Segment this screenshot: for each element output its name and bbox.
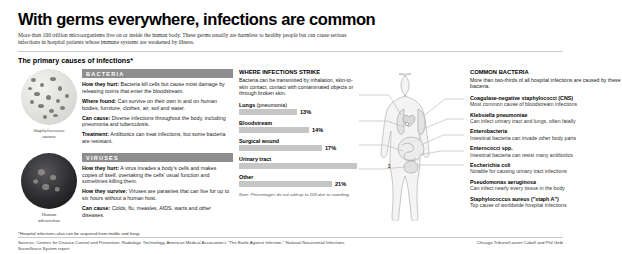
human-body-diagram bbox=[359, 69, 464, 225]
bar-label-text: Surgical wound bbox=[239, 138, 279, 144]
bar-fill bbox=[239, 181, 332, 187]
chart-bar-urinary-tract: Urinary tract 34% bbox=[239, 156, 359, 170]
bacteria-list-item: Staphylococcus aureus ("staph A") Top ca… bbox=[470, 196, 622, 209]
viruses-figure: Human adenovirus bbox=[18, 153, 80, 224]
bacteria-desc: Intestinal bacteria can resist many anti… bbox=[470, 152, 622, 158]
chart-bar-bloodstream: Bloodstream 14% bbox=[239, 120, 359, 134]
where-infections-strike-chart: WHERE INFECTIONS STRIKE Bacteria can be … bbox=[239, 69, 359, 196]
virus-photo-caption: Human adenovirus bbox=[18, 212, 80, 224]
bar-row: 13% bbox=[239, 109, 359, 115]
bacteria-desc: Top cause of worldwide hospital infectio… bbox=[470, 202, 622, 208]
bacteria-list-item: Enterobacteria Intestinal bacteria can i… bbox=[470, 128, 622, 141]
causes-column: Staphylococcus aureus BACTERIA How they … bbox=[18, 69, 233, 229]
bar-label-text: Urinary tract bbox=[239, 156, 271, 162]
bacteria-figure: Staphylococcus aureus bbox=[18, 69, 80, 140]
bar-value: 13% bbox=[300, 109, 311, 115]
bacteria-list-item: Enterococci spp. Intestinal bacteria can… bbox=[470, 145, 622, 158]
content-columns: Staphylococcus aureus BACTERIA How they … bbox=[18, 69, 563, 229]
common-bacteria-column: COMMON BACTERIA More than two-thirds of … bbox=[470, 69, 622, 212]
callout-dot bbox=[405, 123, 408, 126]
bacteria-caption-line1: Staphylococcus bbox=[33, 128, 64, 133]
bar-fill bbox=[239, 163, 357, 169]
chart-bar-other: Other 21% bbox=[239, 174, 359, 188]
chart-note: Note: Percentages do not add up to 100 d… bbox=[239, 192, 359, 197]
bacteria-list-item: Klebsiella pneumoniae Can infect urinary… bbox=[470, 112, 622, 125]
bacteria-desc: Can infect nearly every tissue in the bo… bbox=[470, 185, 622, 191]
chart-bar-surgical-wound: Surgical wound 17% bbox=[239, 138, 359, 152]
bar-label-text: Lungs bbox=[239, 102, 255, 108]
fact-label: Treatment: bbox=[82, 131, 109, 137]
divider-top bbox=[18, 51, 563, 52]
common-bacteria-subtitle: More than two-thirds of all hospital inf… bbox=[470, 77, 622, 90]
fact-label: How they survive: bbox=[82, 188, 127, 194]
fact-label: How they hurt: bbox=[82, 81, 119, 87]
bar-fill bbox=[239, 109, 297, 115]
bar-value: 17% bbox=[325, 145, 336, 151]
bar-value: 21% bbox=[335, 181, 346, 187]
bar-fill bbox=[239, 145, 322, 151]
staphylococcus-aureus-photo bbox=[21, 69, 77, 125]
bacteria-desc: Notable for causing urinary tract infect… bbox=[470, 168, 622, 174]
bacteria-text: BACTERIA How they hurt: Bacteria kill ce… bbox=[80, 69, 233, 148]
bar-label: Surgical wound bbox=[239, 138, 359, 144]
bar-label: Lungs (pneumonia) bbox=[239, 102, 359, 108]
virus-caption-line2: adenovirus bbox=[38, 218, 60, 223]
bar-row: 17% bbox=[239, 145, 359, 151]
footer: *Hospital infections also can be acquire… bbox=[18, 231, 563, 251]
viruses-text: VIRUSES How they hurt: A virus invades a… bbox=[80, 153, 233, 222]
bar-row: 34% bbox=[239, 163, 359, 169]
bar-label: Urinary tract bbox=[239, 156, 359, 162]
bar-label-qualifier: (pneumonia) bbox=[255, 102, 287, 108]
fact-label: Can cause: bbox=[82, 115, 110, 121]
divider-bottom bbox=[18, 237, 563, 238]
bar-label-text: Bloodstream bbox=[239, 120, 272, 126]
credit-line: Chicago Tribune/Lauren Cabell and Phil G… bbox=[477, 240, 563, 245]
chart-bar-lungs: Lungs (pneumonia) 13% bbox=[239, 102, 359, 116]
bacteria-fact: How they hurt: Bacteria kill cells but c… bbox=[82, 81, 233, 94]
fact-label: Where found: bbox=[82, 98, 116, 104]
bacteria-category-bar: BACTERIA bbox=[82, 69, 233, 78]
fact-label: Can cause: bbox=[82, 205, 110, 211]
bacteria-fact: Can cause: Diverse infections throughout… bbox=[82, 115, 233, 128]
virus-fact: How they survive: Viruses are parasites … bbox=[82, 188, 233, 201]
fact-label: How they hurt: bbox=[82, 165, 119, 171]
viruses-block: Human adenovirus VIRUSES How they hurt: … bbox=[18, 153, 233, 224]
common-bacteria-title: COMMON BACTERIA bbox=[470, 69, 622, 75]
bacteria-list-item: Escherichia coli Notable for causing uri… bbox=[470, 162, 622, 175]
bacteria-photo-caption: Staphylococcus aureus bbox=[18, 128, 80, 140]
page-title: With germs everywhere, infections are co… bbox=[18, 10, 563, 28]
bacteria-caption-line2: aureus bbox=[42, 134, 55, 139]
section-title: The primary causes of infections* bbox=[18, 56, 563, 65]
bacteria-fact: Treatment: Antibiotics can treat infecti… bbox=[82, 131, 233, 144]
bar-label: Other bbox=[239, 174, 359, 180]
viruses-category-bar: VIRUSES bbox=[82, 153, 233, 162]
bar-label: Bloodstream bbox=[239, 120, 359, 126]
virus-caption-line1: Human bbox=[42, 212, 57, 217]
body-silhouette-svg bbox=[359, 69, 464, 221]
bacteria-fact: Where found: Can survive on their own in… bbox=[82, 98, 233, 111]
bacteria-list-item: Pseudomonas aeruginosa Can infect nearly… bbox=[470, 179, 622, 192]
bar-label-text: Other bbox=[239, 174, 253, 180]
chart-title: WHERE INFECTIONS STRIKE bbox=[239, 69, 359, 75]
bar-row: 21% bbox=[239, 181, 359, 187]
chart-subtitle: Bacteria can be transmitted by inhalatio… bbox=[239, 77, 359, 96]
bacteria-desc: Most common cause of bloodstream infecti… bbox=[470, 101, 622, 107]
bacteria-list-item: Coagulase-negative staphylococci (CNS) M… bbox=[470, 95, 622, 108]
source-line: Sources: Centers for Disease Control and… bbox=[18, 240, 348, 251]
bar-value: 14% bbox=[312, 127, 323, 133]
bar-row: 14% bbox=[239, 127, 359, 133]
footnote: *Hospital infections also can be acquire… bbox=[18, 231, 563, 236]
bacteria-block: Staphylococcus aureus BACTERIA How they … bbox=[18, 69, 233, 148]
bar-fill bbox=[239, 127, 309, 133]
source-row: Sources: Centers for Disease Control and… bbox=[18, 240, 563, 251]
bacteria-desc: Can infect urinary tract and lungs, ofte… bbox=[470, 118, 622, 124]
human-adenovirus-photo bbox=[21, 153, 77, 209]
deck-text: More than 100 trillion microorganisms li… bbox=[18, 32, 348, 46]
bacteria-desc: Intestinal bacteria can invade other bod… bbox=[470, 135, 622, 141]
virus-fact: How they hurt: A virus invades a body's … bbox=[82, 165, 233, 185]
virus-fact: Can cause: Colds, flu, measles, AIDS, wa… bbox=[82, 205, 233, 218]
